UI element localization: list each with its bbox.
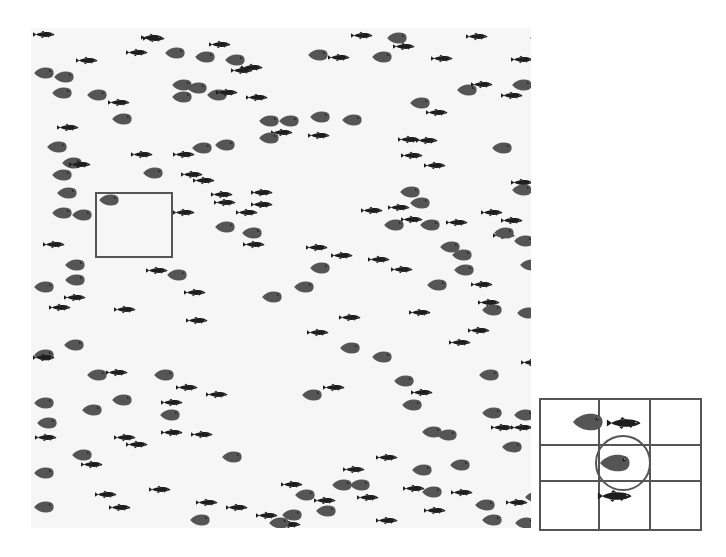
round-fish-icon	[411, 463, 433, 477]
grid-line-horizontal	[541, 444, 700, 446]
round-fish-icon	[569, 412, 607, 432]
small-fish-icon	[368, 255, 390, 264]
round-fish-icon	[371, 350, 393, 364]
round-fish-icon	[513, 408, 531, 422]
small-fish-icon	[391, 265, 413, 274]
small-fish-icon	[451, 488, 473, 497]
round-fish-icon	[307, 48, 329, 62]
round-fish-icon	[481, 406, 503, 420]
round-fish-icon	[221, 450, 243, 464]
round-fish-icon	[453, 263, 475, 277]
small-fish-icon	[57, 123, 79, 132]
round-fish-icon	[111, 393, 133, 407]
small-fish-icon	[95, 490, 117, 499]
small-fish-icon	[511, 55, 531, 64]
round-fish-icon	[339, 341, 361, 355]
round-fish-icon	[516, 306, 531, 320]
round-fish-icon	[493, 226, 515, 240]
small-fish-icon	[446, 218, 468, 227]
small-fish-icon	[466, 32, 488, 41]
small-fish-icon	[161, 428, 183, 437]
small-fish-icon	[521, 358, 531, 367]
small-fish-icon	[481, 208, 503, 217]
small-fish-icon	[403, 484, 425, 493]
small-fish-icon	[176, 383, 198, 392]
round-fish-icon	[501, 440, 523, 454]
small-fish-icon	[471, 80, 493, 89]
small-fish-icon	[351, 31, 373, 40]
round-fish-icon	[309, 110, 331, 124]
round-fish-icon	[514, 516, 531, 528]
small-fish-icon	[343, 465, 365, 474]
round-fish-icon	[393, 374, 415, 388]
round-fish-icon	[474, 498, 496, 512]
round-fish-icon	[81, 403, 103, 417]
round-fish-icon	[258, 131, 280, 145]
round-fish-icon	[436, 428, 458, 442]
small-fish-icon	[243, 240, 265, 249]
small-fish-icon	[357, 493, 379, 502]
round-fish-icon	[331, 478, 353, 492]
small-fish-icon	[388, 203, 410, 212]
small-fish-icon	[306, 243, 328, 252]
small-fish-icon	[231, 66, 253, 75]
round-fish-icon	[481, 513, 503, 527]
small-fish-icon	[49, 303, 71, 312]
small-fish-icon	[393, 42, 415, 51]
round-fish-icon	[261, 290, 283, 304]
small-fish-icon	[251, 188, 273, 197]
round-fish-icon	[189, 513, 211, 527]
small-fish-icon	[281, 480, 303, 489]
round-fish-icon	[598, 453, 632, 473]
round-fish-icon	[86, 368, 108, 382]
round-fish-icon	[301, 388, 323, 402]
small-fish-icon	[511, 423, 531, 432]
small-fish-icon	[173, 208, 195, 217]
small-fish-icon	[114, 305, 136, 314]
round-fish-icon	[478, 368, 500, 382]
round-fish-icon	[513, 234, 531, 248]
small-fish-icon	[339, 313, 361, 322]
round-fish-icon	[164, 46, 186, 60]
small-fish-icon	[401, 215, 423, 224]
neighborhood-grid-inset	[539, 398, 702, 531]
small-fish-icon	[186, 316, 208, 325]
small-fish-icon	[449, 338, 471, 347]
round-fish-icon	[171, 90, 193, 104]
round-fish-icon	[51, 168, 73, 182]
small-fish-icon	[605, 417, 643, 429]
focus-selection-box	[95, 192, 173, 258]
round-fish-icon	[529, 31, 531, 45]
small-fish-icon	[468, 326, 490, 335]
round-fish-icon	[491, 141, 513, 155]
small-fish-icon	[361, 206, 383, 215]
round-fish-icon	[33, 466, 55, 480]
round-fish-icon	[51, 206, 73, 220]
small-fish-icon	[491, 423, 513, 432]
round-fish-icon	[241, 226, 263, 240]
round-fish-icon	[371, 50, 393, 64]
small-fish-icon	[161, 398, 183, 407]
small-fish-icon	[506, 498, 528, 507]
round-fish-icon	[64, 273, 86, 287]
small-fish-icon	[126, 440, 148, 449]
small-fish-icon	[328, 53, 350, 62]
small-fish-icon	[216, 88, 238, 97]
small-fish-icon	[76, 56, 98, 65]
round-fish-icon	[63, 338, 85, 352]
small-fish-icon	[308, 131, 330, 140]
small-fish-icon	[69, 160, 91, 169]
round-fish-icon	[481, 303, 503, 317]
small-fish-icon	[109, 503, 131, 512]
small-fish-icon	[376, 516, 398, 525]
round-fish-icon	[33, 280, 55, 294]
small-fish-icon	[193, 176, 215, 185]
round-fish-icon	[426, 278, 448, 292]
grid-line-horizontal	[541, 480, 700, 482]
round-fish-icon	[224, 53, 246, 67]
small-fish-icon	[108, 98, 130, 107]
small-fish-icon	[401, 151, 423, 160]
round-fish-icon	[71, 208, 93, 222]
small-fish-icon	[236, 208, 258, 217]
round-fish-icon	[111, 112, 133, 126]
